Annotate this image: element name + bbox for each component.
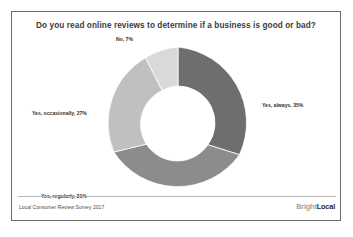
donut-slice-yes-always[interactable]: [178, 47, 247, 155]
chart-card: Do you read online reviews to determine …: [11, 11, 341, 221]
donut-slice-yes-regularly[interactable]: [114, 144, 240, 187]
slice-label-yes-always: Yes, always, 35%: [262, 102, 303, 109]
slice-label-no: No, 7%: [116, 36, 133, 43]
slice-label-yes-occasionally-text: Yes, occasionally, 27%: [32, 110, 87, 116]
slice-label-no-text: No, 7%: [116, 36, 133, 42]
plot-area: No, 7% Yes, always, 35% Yes, occasionall…: [12, 12, 342, 196]
donut-svg: [100, 45, 256, 201]
chart-footer: Local Consumer Review Survey 2017 Bright…: [12, 197, 342, 221]
brand-bright-text: Bright: [296, 202, 317, 211]
brandlocal-logo[interactable]: BrightLocal: [296, 202, 335, 211]
brand-local-text: Local: [317, 202, 335, 211]
donut-chart: [100, 45, 256, 201]
slice-label-yes-always-text: Yes, always, 35%: [262, 102, 303, 108]
footer-source-text: Local Consumer Review Survey 2017: [19, 204, 104, 210]
slice-label-yes-occasionally: Yes, occasionally, 27%: [32, 110, 87, 117]
